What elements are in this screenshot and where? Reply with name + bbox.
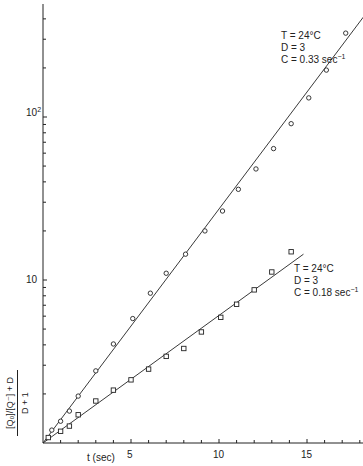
data-point-circle bbox=[111, 342, 115, 346]
data-point-circle bbox=[307, 96, 311, 100]
annotation-upper-series: T = 24°C D = 3 C = 0.33 sec−1 bbox=[281, 30, 345, 66]
y-axis-label: [Q₀]/[Q⁻] + D D + 1 bbox=[3, 370, 37, 436]
y-tick-exponent: 2 bbox=[37, 106, 41, 113]
y-axis-label-denominator: D + 1 bbox=[18, 370, 32, 436]
annotation-d-value: D = 3 bbox=[294, 275, 358, 287]
data-point-square bbox=[270, 270, 274, 274]
annotation-temperature: T = 24°C bbox=[294, 263, 358, 275]
y-tick-base: 10 bbox=[26, 107, 37, 118]
x-axis-label: t (sec) bbox=[87, 452, 115, 463]
y-tick-label-100: 102 bbox=[26, 106, 41, 118]
data-point-circle bbox=[220, 209, 224, 213]
data-point-square bbox=[219, 315, 223, 319]
y-tick-label-10: 10 bbox=[26, 274, 37, 285]
chart-plot-area bbox=[0, 0, 363, 466]
data-point-circle bbox=[254, 167, 258, 171]
data-point-circle bbox=[94, 369, 98, 373]
data-point-circle bbox=[50, 428, 54, 432]
data-point-circle bbox=[183, 252, 187, 256]
axes bbox=[43, 4, 363, 443]
data-point-square bbox=[46, 435, 50, 439]
data-point-circle bbox=[58, 419, 62, 423]
data-point-circle bbox=[236, 187, 240, 191]
data-point-square bbox=[58, 429, 62, 433]
data-point-circle bbox=[164, 271, 168, 275]
y-axis-label-numerator: [Q₀]/[Q⁻] + D bbox=[3, 370, 18, 436]
annotation-lower-series: T = 24°C D = 3 C = 0.18 sec−1 bbox=[294, 263, 358, 299]
data-point-circle bbox=[76, 394, 80, 398]
data-point-square bbox=[146, 367, 150, 371]
data-point-square bbox=[129, 378, 133, 382]
data-point-circle bbox=[148, 291, 152, 295]
data-point-square bbox=[76, 413, 80, 417]
data-point-square bbox=[111, 388, 115, 392]
x-tick-label-5: 5 bbox=[127, 449, 133, 460]
annotation-c-value: C = 0.33 sec−1 bbox=[281, 54, 345, 66]
data-point-square bbox=[289, 250, 293, 254]
fit-line-series-2 bbox=[43, 254, 303, 443]
data-point-circle bbox=[67, 409, 71, 413]
data-point-square bbox=[199, 330, 203, 334]
data-point-square bbox=[234, 302, 238, 306]
x-tick-label-15: 15 bbox=[301, 449, 312, 460]
data-point-square bbox=[94, 399, 98, 403]
data-point-circle bbox=[203, 229, 207, 233]
annotation-d-value: D = 3 bbox=[281, 42, 345, 54]
data-point-circle bbox=[131, 316, 135, 320]
data-point-square bbox=[164, 354, 168, 358]
data-point-circle bbox=[289, 121, 293, 125]
data-point-circle bbox=[324, 68, 328, 72]
annotation-temperature: T = 24°C bbox=[281, 30, 345, 42]
data-point-square bbox=[67, 424, 71, 428]
annotation-c-value: C = 0.18 sec−1 bbox=[294, 287, 358, 299]
x-tick-label-10: 10 bbox=[213, 449, 224, 460]
data-point-square bbox=[182, 346, 186, 350]
data-point-circle bbox=[271, 146, 275, 150]
data-point-square bbox=[252, 288, 256, 292]
